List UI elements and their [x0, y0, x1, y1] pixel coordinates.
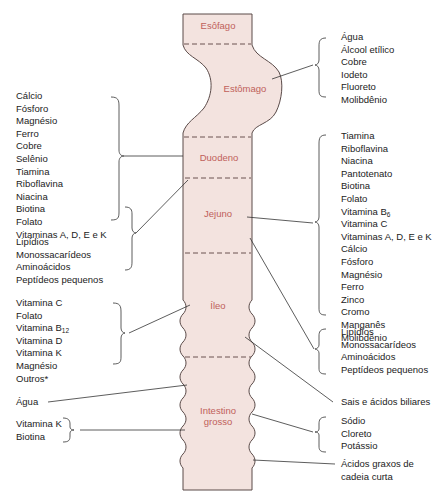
- list-item: Lipídios: [341, 326, 428, 339]
- list-item: Riboflavina: [16, 178, 107, 191]
- label-esofago: Esôfago: [198, 20, 238, 31]
- list-item: Folato: [16, 216, 107, 229]
- list-item: Vitamina B12: [16, 322, 69, 335]
- list-item: Biotina: [16, 203, 107, 216]
- list-item: Ferro: [341, 281, 432, 294]
- list-ileo: Vitamina C Folato Vitamina B12 Vitamina …: [16, 297, 69, 385]
- list-item: Álcool etílico: [341, 44, 394, 57]
- list-item: Aminoácidos: [16, 261, 103, 274]
- list-item: Vitamina B6: [341, 206, 432, 219]
- list-duodeno-micronutrients: Cálcio Fósforo Magnésio Ferro Cobre Selê…: [16, 90, 107, 241]
- list-item: Cromo: [341, 306, 432, 319]
- list-duodeno-macronutrients: Lipídios Monossacarídeos Aminoácidos Pep…: [16, 236, 103, 286]
- list-item: Monossacarídeos: [16, 249, 103, 262]
- list-item: Potássio: [341, 440, 377, 453]
- list-item: Aminoácidos: [341, 351, 428, 364]
- list-item: Molibdênio: [341, 94, 394, 107]
- list-item: Vitamina D: [16, 335, 69, 348]
- label-duodeno: Duodeno: [194, 152, 244, 163]
- list-item: Tiamina: [341, 130, 432, 143]
- list-item: Cloreto: [341, 428, 377, 441]
- list-item: Biotina: [16, 431, 62, 444]
- list-item: Magnésio: [16, 360, 69, 373]
- list-item: Tiamina: [16, 166, 107, 179]
- label-ileo: Íleo: [200, 300, 236, 311]
- label-sais-biliares: Sais e ácidos biliares: [341, 396, 430, 409]
- list-item: Monossacarídeos: [341, 339, 428, 352]
- list-item: Sódio: [341, 415, 377, 428]
- list-item: Cálcio: [16, 90, 107, 103]
- list-item: Magnésio: [16, 115, 107, 128]
- list-item: Iodeto: [341, 69, 394, 82]
- list-item: Ácidos graxos de: [341, 458, 414, 471]
- list-jejuno-micronutrients: Tiamina Riboflavina Niacina Pantotenato …: [341, 130, 432, 344]
- label-estomago: Estômago: [220, 83, 270, 94]
- label-intestino-grosso: Intestino grosso: [190, 405, 246, 427]
- list-item: cadeia curta: [341, 471, 414, 484]
- subscript: 6: [387, 211, 391, 218]
- list-item: Vitaminas A, D, E e K: [341, 231, 432, 244]
- list-item: Vitamina K: [16, 418, 62, 431]
- list-item: Folato: [16, 310, 69, 323]
- list-estomago: Água Álcool etílico Cobre Iodeto Fluoret…: [341, 31, 394, 107]
- label-jejuno: Jejuno: [196, 208, 240, 219]
- list-item: Fluoreto: [341, 81, 394, 94]
- list-colon-left: Vitamina K Biotina: [16, 418, 62, 443]
- list-item: Vitamina C: [16, 297, 69, 310]
- list-item: Magnésio: [341, 269, 432, 282]
- list-colon-right: Sódio Cloreto Potássio: [341, 415, 377, 453]
- list-item: Peptídeos pequenos: [16, 274, 103, 287]
- list-item: Niacina: [341, 155, 432, 168]
- list-item: Ferro: [16, 128, 107, 141]
- list-item: Cobre: [16, 140, 107, 153]
- list-item: Água: [16, 396, 38, 409]
- list-item-text: Vitamina B: [341, 206, 387, 217]
- label-acidos-graxos: Ácidos graxos de cadeia curta: [341, 458, 414, 483]
- list-item: Água: [341, 31, 394, 44]
- list-jejuno-macronutrients: Lipídios Monossacarídeos Aminoácidos Pep…: [341, 326, 428, 376]
- list-item: Sais e ácidos biliares: [341, 396, 430, 409]
- list-item: Pantotenato: [341, 168, 432, 181]
- list-item: Biotina: [341, 180, 432, 193]
- list-item: Fósforo: [16, 103, 107, 116]
- list-item: Riboflavina: [341, 143, 432, 156]
- list-item: Lipídios: [16, 236, 103, 249]
- label-agua-left: Água: [16, 396, 38, 409]
- list-item: Vitamina C: [341, 218, 432, 231]
- subscript: 12: [62, 327, 69, 334]
- list-item: Vitamina K: [16, 347, 69, 360]
- list-item: Zinco: [341, 294, 432, 307]
- label-intestino-line2: grosso: [190, 416, 246, 427]
- list-item: Folato: [341, 193, 432, 206]
- list-item: Niacina: [16, 191, 107, 204]
- list-item-text: Vitamina B: [16, 322, 62, 333]
- list-item: Fósforo: [341, 256, 432, 269]
- list-item: Cálcio: [341, 243, 432, 256]
- list-item: Outros*: [16, 373, 69, 386]
- label-intestino-line1: Intestino: [190, 405, 246, 416]
- list-item: Selênio: [16, 153, 107, 166]
- list-item: Peptídeos pequenos: [341, 364, 428, 377]
- list-item: Cobre: [341, 56, 394, 69]
